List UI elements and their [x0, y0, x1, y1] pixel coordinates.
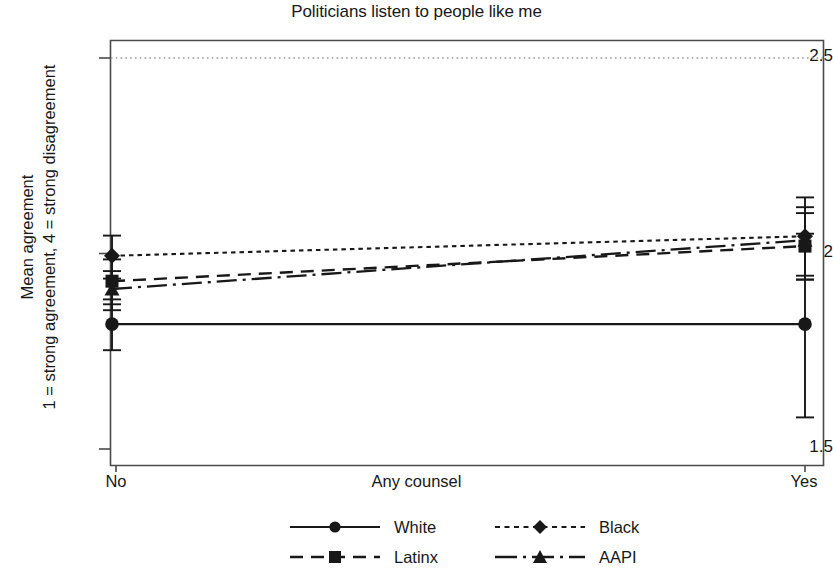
legend-item-latinx: Latinx — [288, 543, 478, 571]
series-latinx — [112, 246, 805, 281]
legend-label-latinx: Latinx — [382, 548, 438, 567]
legend-item-white: White — [288, 513, 478, 541]
solid-circle-key — [288, 516, 382, 538]
legend-label-black: Black — [587, 518, 639, 537]
series-black-line — [112, 236, 805, 256]
legend-row-1: White Black — [288, 513, 678, 541]
series-black — [112, 236, 805, 256]
legend-item-aapi: AAPI — [493, 543, 678, 571]
x-tick-label-yes: Yes — [778, 472, 830, 491]
dashed-square-key — [288, 546, 382, 568]
marker-latinx-yes-square — [799, 240, 812, 253]
marker-black-no-diamond — [104, 248, 120, 264]
dashdot-triangle-key — [493, 546, 587, 568]
legend-label-white: White — [382, 518, 436, 537]
series-latinx-line — [112, 246, 805, 281]
legend-label-aapi: AAPI — [587, 548, 637, 567]
chart-legend: White Black Latinx — [288, 513, 678, 575]
dotted-diamond-key — [493, 516, 587, 538]
chart-figure: Politicians listen to people like me Mea… — [0, 0, 833, 577]
marker-white-no-circle — [105, 317, 119, 331]
legend-item-black: Black — [493, 513, 678, 541]
legend-row-2: Latinx AAPI — [288, 543, 678, 571]
marker-white-yes-circle — [798, 317, 812, 331]
x-axis-label: Any counsel — [0, 472, 833, 491]
